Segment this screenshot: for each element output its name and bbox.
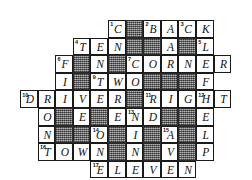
letter-cell[interactable]: W bbox=[73, 143, 91, 161]
block-cell bbox=[90, 108, 108, 126]
letter-cell[interactable]: 2B bbox=[143, 20, 161, 38]
letter-cell[interactable]: V bbox=[161, 143, 179, 161]
letter-cell[interactable]: E bbox=[90, 38, 108, 56]
block-cell bbox=[108, 126, 126, 144]
letter-cell[interactable]: R bbox=[108, 90, 126, 108]
letter-cell[interactable]: L bbox=[108, 161, 126, 179]
cell-letter: G bbox=[179, 91, 195, 107]
cell-letter: A bbox=[162, 39, 178, 55]
letter-cell[interactable]: R bbox=[161, 55, 179, 73]
letter-cell[interactable]: 4T bbox=[73, 38, 91, 56]
letter-cell[interactable]: 12H bbox=[196, 90, 214, 108]
cell-letter: L bbox=[109, 162, 125, 178]
letter-cell[interactable]: 5L bbox=[196, 38, 214, 56]
letter-cell[interactable]: I bbox=[161, 90, 179, 108]
letter-cell[interactable]: L bbox=[196, 126, 214, 144]
cell-letter: V bbox=[144, 162, 160, 178]
letter-cell[interactable]: D bbox=[143, 108, 161, 126]
letter-cell[interactable]: 9T bbox=[90, 73, 108, 91]
crossword-grid[interactable]: 1C2BA3CK4TENA5L6FN7CORNERI9TWOF10DRIVER1… bbox=[20, 20, 214, 179]
cell-letter: N bbox=[127, 144, 143, 160]
block-cell bbox=[73, 126, 91, 144]
cell-letter: L bbox=[197, 39, 213, 55]
letter-cell[interactable]: 14O bbox=[90, 126, 108, 144]
letter-cell[interactable]: 13N bbox=[126, 108, 144, 126]
letter-cell[interactable]: E bbox=[161, 161, 179, 179]
letter-cell[interactable]: R bbox=[38, 90, 56, 108]
cell-letter: R bbox=[162, 56, 178, 72]
cell-letter: D bbox=[21, 91, 37, 107]
cell-letter: A bbox=[162, 127, 178, 143]
letter-cell[interactable]: N bbox=[38, 126, 56, 144]
letter-cell[interactable]: 15A bbox=[161, 126, 179, 144]
block-cell bbox=[73, 55, 91, 73]
block-cell bbox=[178, 143, 196, 161]
letter-cell[interactable]: 1C bbox=[108, 20, 126, 38]
letter-cell[interactable]: N bbox=[178, 161, 196, 179]
letter-cell[interactable]: 6F bbox=[55, 55, 73, 73]
letter-cell[interactable]: G bbox=[178, 90, 196, 108]
cell-letter: O bbox=[144, 56, 160, 72]
letter-cell[interactable]: E bbox=[108, 108, 126, 126]
letter-cell[interactable]: 3C bbox=[178, 20, 196, 38]
block-cell bbox=[143, 126, 161, 144]
letter-cell[interactable]: O bbox=[38, 108, 56, 126]
cell-letter: P bbox=[197, 144, 213, 160]
letter-cell[interactable]: E bbox=[196, 108, 214, 126]
cell-letter: T bbox=[39, 144, 55, 160]
block-cell bbox=[143, 143, 161, 161]
letter-cell[interactable]: N bbox=[108, 38, 126, 56]
letter-cell[interactable]: I bbox=[55, 90, 73, 108]
letter-cell[interactable]: 16T bbox=[38, 143, 56, 161]
letter-cell[interactable]: E bbox=[90, 90, 108, 108]
letter-cell[interactable]: R bbox=[214, 55, 232, 73]
block-cell bbox=[126, 20, 144, 38]
letter-cell[interactable]: O bbox=[126, 73, 144, 91]
letter-cell[interactable]: 11R bbox=[143, 90, 161, 108]
cell-letter: R bbox=[109, 91, 125, 107]
cell-letter: D bbox=[144, 109, 160, 125]
letter-cell[interactable]: F bbox=[196, 73, 214, 91]
block-cell bbox=[178, 38, 196, 56]
block-cell bbox=[178, 126, 196, 144]
letter-cell[interactable]: V bbox=[143, 161, 161, 179]
letter-cell[interactable]: P bbox=[196, 143, 214, 161]
cell-letter: E bbox=[74, 109, 90, 125]
cell-letter: W bbox=[74, 144, 90, 160]
cell-letter: E bbox=[91, 91, 107, 107]
cell-letter: O bbox=[56, 144, 72, 160]
letter-cell[interactable]: T bbox=[214, 90, 232, 108]
letter-cell[interactable]: E bbox=[196, 55, 214, 73]
letter-cell[interactable]: A bbox=[161, 20, 179, 38]
letter-cell[interactable]: K bbox=[196, 20, 214, 38]
letter-cell[interactable]: E bbox=[73, 108, 91, 126]
cell-letter: E bbox=[197, 109, 213, 125]
cell-letter: O bbox=[127, 74, 143, 90]
block-cell bbox=[178, 73, 196, 91]
letter-cell[interactable]: A bbox=[161, 38, 179, 56]
letter-cell[interactable]: 10D bbox=[20, 90, 38, 108]
letter-cell[interactable]: N bbox=[90, 55, 108, 73]
letter-cell[interactable]: 17E bbox=[90, 161, 108, 179]
crossword-puzzle: 1C2BA3CK4TENA5L6FN7CORNERI9TWOF10DRIVER1… bbox=[0, 0, 252, 180]
cell-letter: N bbox=[91, 144, 107, 160]
block-cell bbox=[161, 108, 179, 126]
letter-cell[interactable]: N bbox=[90, 143, 108, 161]
letter-cell[interactable]: E bbox=[126, 161, 144, 179]
letter-cell[interactable]: N bbox=[126, 143, 144, 161]
letter-cell[interactable]: O bbox=[55, 143, 73, 161]
letter-cell[interactable]: W bbox=[108, 73, 126, 91]
cell-letter: V bbox=[74, 91, 90, 107]
cell-letter: R bbox=[144, 91, 160, 107]
letter-cell[interactable]: 7C bbox=[126, 55, 144, 73]
letter-cell[interactable]: I bbox=[55, 73, 73, 91]
cell-letter: N bbox=[179, 56, 195, 72]
block-cell bbox=[73, 73, 91, 91]
cell-letter: N bbox=[179, 162, 195, 178]
block-cell bbox=[143, 38, 161, 56]
cell-letter: T bbox=[215, 91, 231, 107]
letter-cell[interactable]: I bbox=[126, 126, 144, 144]
letter-cell[interactable]: O bbox=[143, 55, 161, 73]
letter-cell[interactable]: N bbox=[178, 55, 196, 73]
letter-cell[interactable]: V bbox=[73, 90, 91, 108]
